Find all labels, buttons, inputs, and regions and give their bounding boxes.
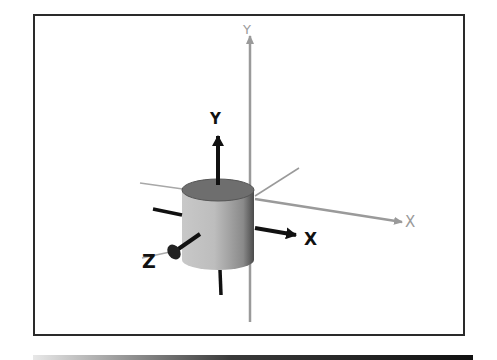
- cylinder-object: [182, 179, 254, 270]
- coordinate-diagram: [0, 0, 497, 360]
- world-x-label: X: [405, 213, 415, 231]
- local-y-axis-negative: [220, 270, 221, 295]
- world-y-label: Y: [243, 22, 251, 37]
- world-z-axis: [255, 168, 299, 196]
- local-x-axis: [255, 228, 296, 235]
- local-x-label: X: [304, 229, 317, 249]
- local-y-label: Y: [210, 110, 221, 128]
- local-x-axis-negative: [153, 209, 182, 215]
- local-z-label: Z: [142, 250, 156, 272]
- page-edge-bar: [33, 355, 473, 360]
- world-x-axis: [255, 199, 402, 222]
- world-axes: [140, 36, 402, 322]
